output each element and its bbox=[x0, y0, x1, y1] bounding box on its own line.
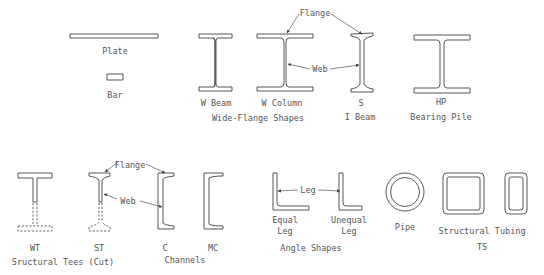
tees-group-label: Sructural Tees (Cut) bbox=[12, 257, 114, 267]
wt-label: WT bbox=[30, 243, 40, 253]
ts-label: TS bbox=[477, 242, 487, 252]
mc-channel-shape bbox=[204, 173, 223, 229]
i-beam-label: I Beam bbox=[345, 112, 376, 122]
unequal-leg-angle-shape bbox=[339, 173, 362, 210]
hp-label: HP bbox=[436, 97, 446, 107]
ts-square-shape bbox=[443, 173, 484, 214]
hp-shape bbox=[414, 35, 470, 93]
w-column-shape bbox=[257, 34, 313, 91]
web-callout-bottom: Web bbox=[120, 196, 135, 206]
c-label: C bbox=[162, 243, 167, 253]
mc-label: MC bbox=[208, 243, 218, 253]
ts-rect-shape bbox=[505, 173, 527, 214]
equal-leg-label-line2: Leg bbox=[277, 226, 292, 236]
flange-callout-bottom: Flange bbox=[115, 160, 146, 170]
st-label: ST bbox=[94, 243, 104, 253]
wt-shape bbox=[18, 173, 52, 231]
unequal-leg-label-line2: Leg bbox=[341, 226, 356, 236]
angle-group-label: Angle Shapes bbox=[280, 243, 341, 253]
pipe-shape bbox=[386, 173, 424, 211]
equal-leg-label-line1: Equal bbox=[272, 215, 298, 225]
channels-group-label: Channels bbox=[165, 255, 206, 265]
w-column-label: W Column bbox=[262, 98, 303, 108]
s-beam-shape bbox=[351, 33, 373, 92]
unequal-leg-label-line1: Unequal bbox=[331, 215, 367, 225]
flange-callout-top: Flange bbox=[300, 8, 331, 18]
web-callout-top: Web bbox=[312, 64, 327, 74]
pipe-label: Pipe bbox=[395, 222, 415, 232]
top-callout-arrows bbox=[287, 14, 362, 69]
leg-callout: Leg bbox=[300, 185, 315, 195]
bar-shape bbox=[107, 74, 123, 80]
plate-label: Plate bbox=[102, 46, 128, 56]
bearing-pile-label: Bearing Pile bbox=[410, 112, 471, 122]
s-label: S bbox=[358, 98, 363, 108]
c-channel-shape bbox=[158, 173, 174, 229]
plate-shape bbox=[70, 34, 158, 38]
wide-flange-group-label: Wide-Flange Shapes bbox=[212, 113, 304, 123]
tubing-label: Structural Tubing bbox=[439, 226, 526, 236]
st-shape bbox=[89, 173, 110, 231]
w-beam-shape bbox=[199, 34, 232, 91]
bar-label: Bar bbox=[107, 90, 122, 100]
w-beam-label: W Beam bbox=[201, 98, 232, 108]
